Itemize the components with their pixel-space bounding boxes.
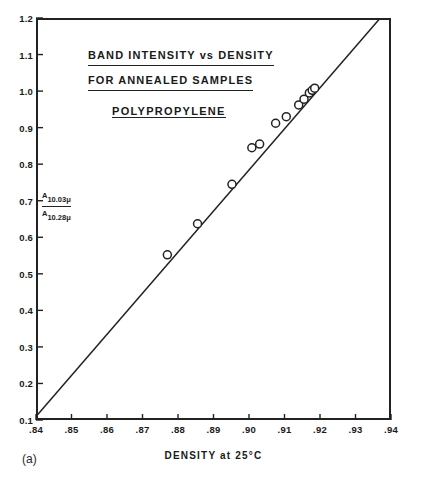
x-axis-title: DENSITY at 25°C: [36, 450, 391, 461]
x-tick-label: .91: [278, 424, 292, 435]
panel-label: (a): [22, 452, 37, 466]
y-axis-ratio-label: A10.03μ A10.28μ: [42, 190, 71, 222]
data-point: [194, 220, 202, 228]
x-tick-label: .86: [100, 424, 114, 435]
data-point: [256, 140, 264, 148]
x-tick-label: .88: [171, 424, 185, 435]
x-tick-label: .93: [349, 424, 363, 435]
x-tick-label: .92: [313, 424, 327, 435]
y-axis-tick-labels: 0.10.20.30.40.50.60.70.80.91.01.11.2: [0, 18, 33, 420]
data-point: [228, 180, 236, 188]
y-tick-label: 0.7: [19, 195, 33, 206]
y-tick-label: 0.3: [19, 341, 33, 352]
y-tick-label: 0.8: [19, 159, 33, 170]
chart-subtitle: POLYPROPYLENE: [112, 101, 226, 119]
numerator-subscript: 10.03μ: [47, 195, 70, 204]
x-axis-tick-labels: .84.85.86.87.88.89.90.91.92.93.94: [36, 424, 391, 440]
y-tick-label: 0.6: [19, 232, 33, 243]
denominator-subscript: 10.28μ: [47, 212, 70, 221]
plot-area: BAND INTENSITY vs DENSITY FOR ANNEALED S…: [36, 18, 391, 420]
y-tick-label: 0.2: [19, 378, 33, 389]
y-axis-ratio-denominator: A10.28μ: [42, 207, 71, 223]
y-tick-label: 0.9: [19, 122, 33, 133]
chart-title: BAND INTENSITY vs DENSITY FOR ANNEALED S…: [88, 45, 338, 95]
x-tick-label: .94: [384, 424, 398, 435]
data-point: [163, 251, 171, 259]
y-tick-label: 1.2: [19, 13, 33, 24]
x-tick-label: .87: [136, 424, 150, 435]
y-tick-label: 1.0: [19, 86, 33, 97]
y-tick-label: 0.4: [19, 305, 33, 316]
x-tick-label: .90: [242, 424, 256, 435]
data-point: [272, 119, 280, 127]
x-tick-label: .89: [207, 424, 221, 435]
y-axis-ratio-numerator: A10.03μ: [42, 190, 71, 207]
data-point: [282, 113, 290, 121]
chart-subtitle-text: POLYPROPYLENE: [112, 105, 226, 118]
y-tick-label: 0.5: [19, 268, 33, 279]
figure-panel: 0.10.20.30.40.50.60.70.80.91.01.11.2 BAN…: [0, 0, 424, 481]
chart-title-line-1: BAND INTENSITY vs DENSITY: [88, 46, 274, 66]
x-tick-label: .84: [29, 424, 43, 435]
x-tick-label: .85: [65, 424, 79, 435]
chart-title-line-2: FOR ANNEALED SAMPLES: [88, 71, 253, 91]
data-point: [248, 144, 256, 152]
y-tick-label: 1.1: [19, 49, 33, 60]
x-axis-ticks: [36, 414, 391, 420]
